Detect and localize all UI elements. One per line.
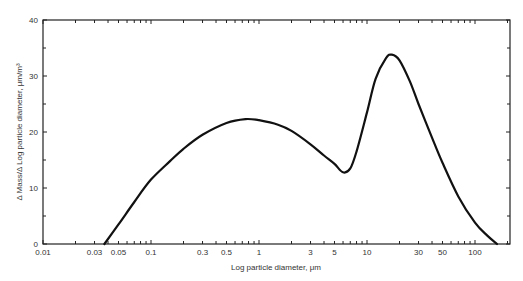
y-axis-ticks: 010203040 [29, 16, 510, 249]
y-tick-label: 10 [29, 184, 38, 193]
x-tick-label: 3 [308, 248, 313, 257]
chart: 010203040 0.010.030.050.10.30.5135103050… [0, 0, 523, 281]
x-tick-label: 0.05 [111, 248, 127, 257]
x-tick-label: 100 [468, 248, 482, 257]
y-axis-title: Δ Mass/Δ Log particle diameter, μm/m³ [15, 63, 24, 200]
data-series-line [104, 54, 497, 244]
x-tick-label: 10 [363, 248, 372, 257]
x-tick-label: 0.01 [35, 248, 51, 257]
x-tick-label: 50 [438, 248, 447, 257]
x-tick-label: 0.3 [197, 248, 209, 257]
y-tick-label: 30 [29, 72, 38, 81]
x-tick-label: 0.03 [87, 248, 103, 257]
y-tick-label: 40 [29, 16, 38, 25]
x-tick-label: 0.5 [221, 248, 233, 257]
x-tick-label: 30 [414, 248, 423, 257]
x-axis-title: Log particle diameter, μm [231, 263, 321, 272]
x-tick-label: 5 [332, 248, 337, 257]
plot-frame [43, 20, 510, 244]
y-tick-label: 20 [29, 128, 38, 137]
x-tick-label: 0.1 [145, 248, 157, 257]
x-axis-ticks: 0.010.030.050.10.30.5135103050100 [35, 20, 507, 257]
x-tick-label: 1 [257, 248, 262, 257]
